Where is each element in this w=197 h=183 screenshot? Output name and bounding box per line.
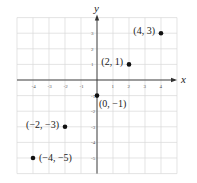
data-point (31, 156, 36, 161)
x-tick-label: 3 (144, 84, 147, 89)
y-tick-label: -5 (91, 156, 96, 161)
data-point (159, 31, 164, 36)
x-tick-label: -3 (48, 84, 53, 89)
point-label: (0, −1) (99, 98, 126, 110)
data-point (63, 125, 68, 130)
y-tick-label: 1 (91, 62, 94, 67)
y-tick-label: -3 (91, 125, 96, 130)
point-label: (−4, −5) (39, 152, 72, 164)
x-tick-label: 4 (160, 84, 163, 89)
point-label: (2, 1) (101, 56, 123, 68)
coordinate-plane: xy -4-3-2-11234321-1-2-3-4-5 (4, 3)(2, 1… (0, 0, 197, 183)
y-axis-label: y (93, 2, 99, 14)
x-axis-arrow-icon (171, 78, 177, 82)
coordinate-plane-svg: xy -4-3-2-11234321-1-2-3-4-5 (4, 3)(2, 1… (0, 0, 197, 183)
x-tick-label: -4 (32, 84, 37, 89)
x-tick-label: -2 (64, 84, 69, 89)
x-tick-label: 1 (112, 84, 115, 89)
x-axis-label: x (180, 73, 186, 85)
point-label: (−2, −3) (26, 119, 59, 131)
x-tick-label: 2 (128, 84, 131, 89)
x-tick-label: -1 (80, 84, 85, 89)
y-tick-label: 3 (91, 31, 94, 36)
y-tick-label: 2 (91, 47, 94, 52)
point-label: (4, 3) (133, 25, 155, 37)
y-tick-label: -2 (91, 109, 96, 114)
y-tick-label: -4 (91, 140, 96, 145)
data-point (127, 62, 132, 67)
